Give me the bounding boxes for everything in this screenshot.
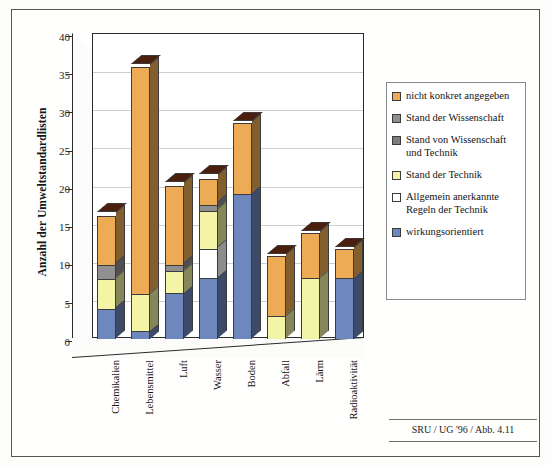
bar-segment bbox=[165, 186, 184, 266]
bar-segment bbox=[199, 278, 218, 339]
bar-side-segment bbox=[150, 57, 158, 292]
bar-segment bbox=[165, 293, 184, 339]
bar-segment bbox=[199, 211, 218, 249]
bar-side-segment bbox=[320, 270, 328, 338]
bar-3d-wrapper bbox=[131, 64, 150, 339]
bar-stack bbox=[97, 216, 116, 338]
legend-swatch-icon bbox=[392, 92, 401, 101]
bar-3d-wrapper bbox=[165, 182, 184, 338]
legend-stand-von-wissenschaft-und-technik[interactable]: Stand von Wissenschaft und Technik bbox=[392, 133, 520, 159]
bar-side-segment bbox=[116, 205, 124, 261]
legend-allgemein-anerkannte-regeln[interactable]: Allgemein anerkannte Regeln der Technik bbox=[392, 190, 520, 216]
plot-area bbox=[72, 33, 372, 358]
bar-stack bbox=[335, 249, 354, 339]
legend-label: nicht konkret angegeben bbox=[406, 89, 509, 102]
bar-side-segment bbox=[116, 301, 124, 338]
x-axis-labels: ChemikalienLebensmittelLuftWasserBodenAb… bbox=[72, 358, 382, 458]
bar-segment bbox=[131, 331, 150, 339]
bar-3d-wrapper bbox=[199, 174, 218, 338]
bar-segment bbox=[165, 271, 184, 294]
bar-side-face bbox=[320, 224, 329, 338]
bar-side-face bbox=[218, 167, 227, 338]
bar-segment bbox=[267, 256, 286, 317]
legend-swatch-icon bbox=[392, 171, 401, 180]
bar-side-face bbox=[286, 247, 295, 338]
bar-3d-wrapper bbox=[301, 231, 320, 338]
x-tick-label: Luft bbox=[178, 360, 189, 378]
bar-stack bbox=[267, 256, 286, 338]
bar-stack bbox=[131, 67, 150, 339]
bar-side-segment bbox=[184, 286, 192, 338]
legend: nicht konkret angegebenStand der Wissens… bbox=[386, 82, 526, 300]
bar-side-segment bbox=[286, 247, 294, 315]
bar-segment bbox=[97, 216, 116, 266]
bar-segment bbox=[267, 316, 286, 339]
legend-wirkungsorientiert[interactable]: wirkungsorientiert bbox=[392, 225, 520, 238]
bar-side-face bbox=[252, 113, 261, 338]
bar-column bbox=[301, 231, 320, 338]
bar-column bbox=[335, 247, 354, 339]
bar-segment bbox=[199, 179, 218, 206]
bar-side-segment bbox=[354, 270, 362, 338]
x-tick-label: Chemikalien bbox=[110, 360, 121, 414]
legend-swatch-icon bbox=[392, 193, 401, 202]
bar-column bbox=[267, 254, 286, 338]
bar-segment bbox=[301, 233, 320, 279]
bar-segment bbox=[233, 194, 252, 339]
bar-column bbox=[131, 64, 150, 339]
legend-swatch-icon bbox=[392, 136, 401, 145]
bars-container bbox=[92, 33, 364, 338]
x-tick-label: Boden bbox=[246, 360, 257, 387]
legend-stand-der-wissenschaft[interactable]: Stand der Wissenschaft bbox=[392, 111, 520, 124]
bar-segment bbox=[233, 123, 252, 195]
bar-side-segment bbox=[150, 286, 158, 331]
chart-page: Anzahl der Umweltstandardlisten 05101520… bbox=[0, 0, 551, 466]
bar-3d-wrapper bbox=[97, 212, 116, 338]
bar-stack bbox=[233, 123, 252, 338]
bar-segment bbox=[97, 265, 116, 280]
bar-3d-wrapper bbox=[267, 254, 286, 338]
legend-swatch-icon bbox=[392, 228, 401, 237]
bar-side-segment bbox=[252, 186, 260, 338]
bar-segment bbox=[131, 294, 150, 332]
bar-column bbox=[199, 174, 218, 338]
bar-side-face bbox=[116, 205, 125, 338]
x-tick-label: Lärm bbox=[314, 360, 325, 383]
legend-nicht-konkret-angegeben[interactable]: nicht konkret angegeben bbox=[392, 89, 520, 102]
bar-side-segment bbox=[320, 225, 328, 277]
bar-stack bbox=[301, 233, 320, 338]
bar-side-face bbox=[150, 56, 159, 338]
x-tick-label: Wasser bbox=[212, 360, 223, 390]
bar-stack bbox=[199, 179, 218, 338]
plot-floor bbox=[72, 338, 364, 358]
bar-3d-wrapper bbox=[335, 247, 354, 339]
legend-label: wirkungsorientiert bbox=[406, 225, 484, 238]
bar-column bbox=[165, 182, 184, 338]
legend-label: Stand von Wissenschaft und Technik bbox=[406, 133, 520, 159]
x-tick-label: Abfall bbox=[280, 360, 291, 387]
bar-stack bbox=[165, 186, 184, 338]
bar-segment bbox=[199, 249, 218, 280]
figure-caption: SRU / UG '96 / Abb. 4.11 bbox=[393, 424, 533, 435]
bar-segment bbox=[97, 279, 116, 310]
bar-side-segment bbox=[286, 308, 294, 338]
legend-swatch-icon bbox=[392, 114, 401, 123]
bar-side-face bbox=[354, 239, 363, 338]
bar-side-segment bbox=[184, 175, 192, 262]
bar-column bbox=[233, 121, 252, 338]
bar-segment bbox=[335, 249, 354, 280]
bar-segment bbox=[97, 309, 116, 340]
legend-label: Stand der Technik bbox=[406, 168, 482, 181]
bar-column bbox=[97, 212, 116, 338]
x-tick-label: Radioaktivität bbox=[348, 360, 359, 420]
bar-side-face bbox=[184, 174, 193, 338]
bar-segment bbox=[301, 278, 320, 339]
legend-label: Allgemein anerkannte Regeln der Technik bbox=[406, 190, 520, 216]
bar-segment bbox=[131, 67, 150, 296]
legend-stand-der-technik[interactable]: Stand der Technik bbox=[392, 168, 520, 181]
y-axis: 0510152025303540 bbox=[44, 33, 70, 358]
plot-left-wall bbox=[72, 33, 93, 358]
caption-rule-top bbox=[389, 419, 537, 420]
bar-side-segment bbox=[218, 270, 226, 338]
legend-label: Stand der Wissenschaft bbox=[406, 111, 504, 124]
